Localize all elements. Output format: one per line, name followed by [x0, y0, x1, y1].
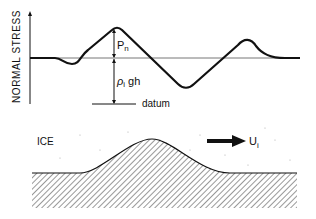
rho-gh-label: ρigh [116, 75, 140, 89]
velocity-label: Ui [249, 135, 259, 150]
pn-label: Pn [117, 39, 129, 53]
y-axis-arrow-icon [28, 11, 32, 16]
stress-plot: NORMAL STRESS Pn ρigh datum [11, 10, 300, 109]
velocity-arrow-icon [232, 135, 246, 147]
bed-profile: ICE Ui [32, 127, 297, 208]
diagram-canvas: NORMAL STRESS Pn ρigh datum [0, 0, 316, 219]
pn-arrow-down-icon [112, 54, 116, 58]
datum-label: datum [142, 98, 170, 109]
rho-arrow-up-icon [112, 59, 116, 63]
ice-label: ICE [37, 136, 54, 147]
rho-arrow-down-icon [112, 100, 116, 104]
y-axis-label: NORMAL STRESS [11, 10, 22, 103]
